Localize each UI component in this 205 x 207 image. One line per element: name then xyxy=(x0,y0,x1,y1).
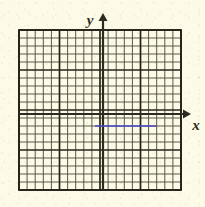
figure-canvas: y x xyxy=(0,0,205,207)
x-axis-label: x xyxy=(191,117,200,133)
x-axis-arrowhead xyxy=(183,110,191,119)
y-axis-label: y xyxy=(85,12,94,28)
y-axis-arrowhead xyxy=(99,13,108,21)
coordinate-plane-graphic: y x xyxy=(0,0,205,207)
